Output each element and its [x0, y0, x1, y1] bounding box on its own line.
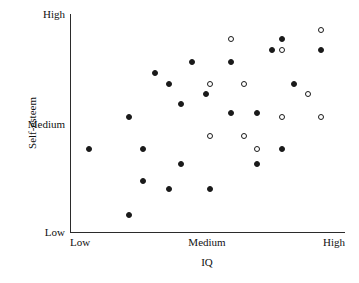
data-point-filled: [166, 186, 172, 192]
data-point-filled: [140, 178, 146, 184]
data-point-filled: [86, 146, 92, 152]
data-point-filled: [279, 36, 285, 42]
plot-area: [0, 0, 359, 283]
data-point-open: [318, 114, 324, 120]
data-point-open: [207, 133, 213, 139]
data-point-filled: [228, 110, 234, 116]
data-point-open: [207, 81, 213, 87]
data-point-filled: [203, 91, 209, 97]
data-point-open: [241, 81, 247, 87]
data-point-filled: [254, 110, 260, 116]
data-point-filled: [178, 161, 184, 167]
data-point-filled: [269, 47, 275, 53]
data-point-open: [254, 146, 260, 152]
data-point-open: [318, 27, 324, 33]
data-point-open: [228, 36, 234, 42]
data-point-open: [305, 91, 311, 97]
data-point-filled: [318, 47, 324, 53]
data-point-filled: [207, 186, 213, 192]
data-point-filled: [291, 81, 297, 87]
data-point-filled: [228, 59, 234, 65]
data-point-filled: [189, 59, 195, 65]
scatter-plot-figure: High Medium Low Low Medium High IQ Self-…: [0, 0, 359, 283]
data-point-filled: [254, 161, 260, 167]
data-point-open: [279, 114, 285, 120]
data-point-open: [241, 133, 247, 139]
data-point-filled: [152, 70, 158, 76]
data-point-filled: [178, 101, 184, 107]
data-point-filled: [279, 146, 285, 152]
data-point-filled: [166, 81, 172, 87]
data-point-filled: [126, 114, 132, 120]
data-point-filled: [140, 146, 146, 152]
data-point-open: [279, 47, 285, 53]
data-point-filled: [126, 212, 132, 218]
